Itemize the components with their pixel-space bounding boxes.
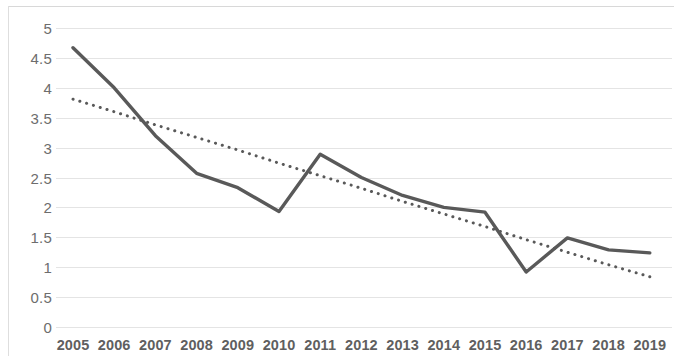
- line-chart: 00.511.522.533.544.55 200520062007200820…: [0, 0, 676, 362]
- plot-area: 00.511.522.533.544.55 200520062007200820…: [0, 0, 676, 362]
- series-layer: [0, 0, 676, 362]
- trendline-series: [73, 99, 650, 277]
- value-series-line: [73, 48, 650, 272]
